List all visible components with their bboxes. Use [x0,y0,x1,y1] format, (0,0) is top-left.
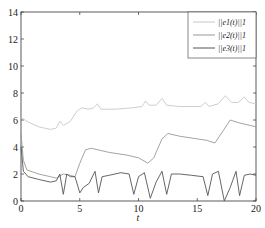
y-tick-label: 4 [13,142,18,153]
legend-label-2: ||e2(t)||1 [218,31,246,40]
line-chart: 02468101214 05101520 t ||e1(t)||1||e2(t)… [0,0,265,228]
y-tick-label: 14 [8,7,18,18]
x-tick-label: 0 [19,203,24,214]
x-tick-label: 5 [77,203,82,214]
legend-label-3: ||e3(t)||1 [218,44,246,53]
x-tick-label: 20 [251,203,261,214]
x-tick-label: 15 [192,203,202,214]
legend: ||e1(t)||1||e2(t)||1||e3(t)||1 [188,12,256,58]
y-tick-label: 12 [8,34,18,45]
y-tick-label: 10 [8,61,18,72]
y-tick-label: 2 [13,169,18,180]
legend-label-1: ||e1(t)||1 [218,18,246,27]
y-tick-label: 0 [13,196,18,207]
y-tick-label: 6 [13,115,18,126]
y-tick-label: 8 [13,88,18,99]
x-axis-label: t [137,212,140,223]
